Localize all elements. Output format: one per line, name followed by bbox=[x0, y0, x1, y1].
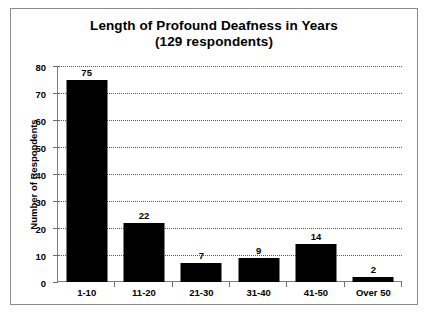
bar-value-label: 22 bbox=[139, 210, 150, 221]
bar-value-label: 14 bbox=[311, 231, 322, 242]
chart-subtitle: (129 respondents) bbox=[11, 34, 417, 50]
bar-group[interactable]: 75 bbox=[58, 66, 115, 282]
bar-group[interactable]: 22 bbox=[115, 66, 172, 282]
x-axis-category-labels: 1-1011-2021-3031-4041-50Over 50 bbox=[58, 287, 402, 303]
bar-value-label: 75 bbox=[81, 67, 92, 78]
bar[interactable] bbox=[181, 263, 222, 282]
bar-group[interactable]: 7 bbox=[173, 66, 230, 282]
bar[interactable] bbox=[353, 277, 394, 282]
x-axis-category-label: 1-10 bbox=[58, 287, 115, 298]
y-axis-tick-label: 60 bbox=[35, 116, 46, 127]
bar-group[interactable]: 2 bbox=[345, 66, 402, 282]
plot-area: 01020304050607080 752279142 bbox=[57, 66, 402, 282]
y-axis-tick-label: 70 bbox=[35, 89, 46, 100]
bar-group[interactable]: 14 bbox=[287, 66, 344, 282]
y-axis-tick-label: 80 bbox=[35, 62, 46, 73]
x-axis-category-label: 21-30 bbox=[173, 287, 230, 298]
chart-title-line1: Length of Profound Deafness in Years bbox=[90, 18, 338, 33]
bar[interactable] bbox=[295, 244, 336, 282]
y-axis-tick-label: 50 bbox=[35, 143, 46, 154]
x-axis-category-label: 31-40 bbox=[230, 287, 287, 298]
bar-group[interactable]: 9 bbox=[230, 66, 287, 282]
x-axis-category-label: 41-50 bbox=[287, 287, 344, 298]
y-axis-tick-label: 10 bbox=[35, 251, 46, 262]
bars-layer: 752279142 bbox=[58, 66, 402, 282]
bar-value-label: 2 bbox=[371, 264, 376, 275]
x-axis-category-label: Over 50 bbox=[345, 287, 402, 298]
y-axis-tick-label: 40 bbox=[35, 170, 46, 181]
bar[interactable] bbox=[123, 223, 164, 282]
bar[interactable] bbox=[238, 258, 279, 282]
y-axis-tick: 0 bbox=[53, 282, 58, 283]
bar-value-label: 9 bbox=[256, 245, 261, 256]
bar-value-label: 7 bbox=[199, 250, 204, 261]
x-axis-category-label: 11-20 bbox=[115, 287, 172, 298]
chart-frame: Length of Profound Deafness in Years (12… bbox=[10, 8, 418, 305]
y-axis-tick-label: 0 bbox=[41, 278, 46, 289]
y-axis-tick-label: 20 bbox=[35, 224, 46, 235]
chart-title: Length of Profound Deafness in Years (12… bbox=[11, 18, 417, 50]
bar[interactable] bbox=[66, 80, 107, 283]
y-axis-tick-label: 30 bbox=[35, 197, 46, 208]
